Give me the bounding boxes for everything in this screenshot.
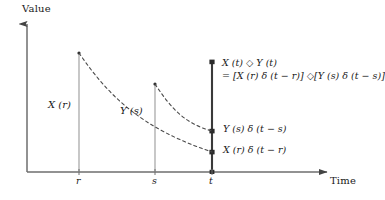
x-tick-label-s: s bbox=[152, 176, 157, 186]
x-tick-label-t: t bbox=[209, 176, 213, 186]
decay-curve-y bbox=[155, 84, 212, 131]
stem-label-x: X (r) δ (t − r) bbox=[223, 145, 286, 155]
stem-t-top-marker bbox=[209, 60, 214, 65]
equation-line-2: = [X (r) δ (t − r)] ◇[Y (s) δ (t − s)] bbox=[222, 71, 385, 81]
equation-line-1: X (t) ◇ Y (t) bbox=[222, 58, 385, 68]
curve-label-y: Y (s) bbox=[120, 106, 143, 117]
y-axis-label: Value bbox=[22, 4, 51, 15]
impulse-convolution-diagram: Value Time r s t X (r) Y (s) Y (s) δ (t … bbox=[0, 0, 385, 200]
stem-t-marker-y bbox=[209, 129, 214, 134]
x-axis-label: Time bbox=[330, 176, 356, 187]
stem-label-y: Y (s) δ (t − s) bbox=[223, 124, 286, 134]
equation-annotation: X (t) ◇ Y (t) = [X (r) δ (t − r)] ◇[Y (s… bbox=[222, 58, 385, 84]
x-tick-label-r: r bbox=[76, 176, 81, 186]
decay-curve-x bbox=[79, 53, 212, 152]
curve-label-x: X (r) bbox=[48, 100, 71, 111]
